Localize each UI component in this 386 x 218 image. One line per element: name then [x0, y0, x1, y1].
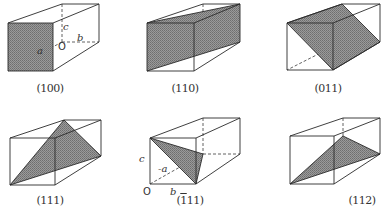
caption-110: (110) [155, 82, 215, 95]
plane-011 [287, 4, 380, 70]
panel-110: (110) [130, 0, 260, 110]
axis-neg-a-label: -a [158, 163, 167, 174]
panel-100: c b a O (100) [0, 0, 130, 110]
panel-112: (112) [260, 110, 386, 218]
caption-100: (100) [20, 82, 80, 95]
plane-110 [147, 4, 240, 71]
axis-a-label: a [37, 45, 43, 56]
plane-100 [8, 23, 53, 71]
plane-112 [290, 136, 380, 184]
caption-011: (011) [298, 82, 358, 95]
caption-bar111: (111) [160, 194, 220, 207]
panel-111: (111) [0, 110, 130, 218]
panel-011: (011) [260, 0, 386, 110]
plane-bar111 [150, 138, 203, 184]
caption-112: (112) [332, 194, 386, 207]
panel-bar111: c -a b O (111) [130, 110, 260, 218]
axis-c-label: c [139, 153, 145, 164]
axis-c-label: c [63, 21, 69, 32]
caption-111: (111) [20, 194, 80, 207]
origin-label: O [143, 186, 151, 197]
axis-b-label: b [77, 32, 83, 43]
plane-111 [10, 120, 101, 185]
origin-label: O [58, 41, 66, 52]
